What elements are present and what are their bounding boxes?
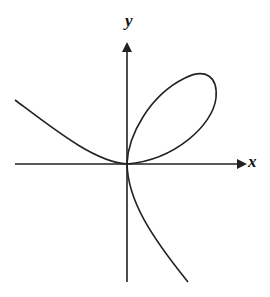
y-axis-label: y [123, 11, 133, 30]
curve-left-branch [15, 100, 127, 164]
curve-loop [127, 74, 216, 164]
curve-lower-branch [127, 164, 188, 282]
diagram-canvas: x y [0, 0, 270, 297]
x-axis-label: x [247, 152, 257, 171]
